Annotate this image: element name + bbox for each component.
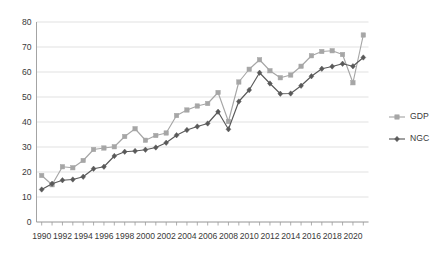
gridlines bbox=[37, 22, 369, 222]
x-tick-label: 2012 bbox=[260, 231, 279, 241]
legend-item-ngc[interactable]: NGC bbox=[389, 133, 429, 143]
series-line-gdp bbox=[42, 35, 364, 185]
data-point-gdp bbox=[205, 101, 209, 105]
x-tick-label: 2014 bbox=[281, 231, 300, 241]
legend-marker bbox=[395, 136, 400, 141]
data-point-ngc bbox=[185, 127, 190, 132]
data-point-gdp bbox=[174, 113, 178, 117]
data-point-gdp bbox=[71, 166, 75, 170]
data-point-gdp bbox=[39, 173, 43, 177]
data-point-gdp bbox=[278, 76, 282, 80]
data-point-gdp bbox=[351, 81, 355, 85]
data-point-gdp bbox=[122, 134, 126, 138]
x-tick-label: 2018 bbox=[323, 231, 342, 241]
data-point-gdp bbox=[268, 69, 272, 73]
x-tick-labels: 1990199219941996199820002002200420062008… bbox=[32, 231, 363, 241]
data-point-gdp bbox=[361, 33, 365, 37]
data-point-ngc bbox=[133, 148, 138, 153]
legend-marker bbox=[395, 115, 399, 119]
x-tick-marks bbox=[42, 222, 364, 226]
y-tick-label: 30 bbox=[22, 142, 32, 152]
y-tick-label: 60 bbox=[22, 67, 32, 77]
chart-legend: GDPNGC bbox=[389, 111, 429, 143]
data-point-gdp bbox=[143, 138, 147, 142]
data-point-ngc bbox=[70, 177, 75, 182]
legend-label: GDP bbox=[410, 111, 429, 121]
data-point-gdp bbox=[330, 49, 334, 53]
y-tick-label: 50 bbox=[22, 92, 32, 102]
line-chart: 01020304050607080 1990199219941996199820… bbox=[0, 0, 445, 257]
x-tick-label: 1996 bbox=[94, 231, 113, 241]
y-tick-label: 0 bbox=[27, 217, 32, 227]
data-point-gdp bbox=[102, 146, 106, 150]
data-point-gdp bbox=[154, 133, 158, 137]
data-point-gdp bbox=[247, 67, 251, 71]
y-tick-label: 20 bbox=[22, 167, 32, 177]
x-tick-label: 2010 bbox=[240, 231, 259, 241]
data-point-gdp bbox=[185, 108, 189, 112]
series-lines bbox=[39, 33, 365, 192]
data-point-gdp bbox=[112, 145, 116, 149]
x-tick-label: 1994 bbox=[74, 231, 93, 241]
data-point-gdp bbox=[257, 58, 261, 62]
series-gdp bbox=[39, 33, 365, 187]
data-point-ngc bbox=[122, 149, 127, 154]
series-line-ngc bbox=[42, 58, 364, 190]
x-tick-label: 2004 bbox=[177, 231, 196, 241]
data-point-gdp bbox=[340, 52, 344, 56]
data-point-gdp bbox=[320, 49, 324, 53]
x-tick-label: 1992 bbox=[53, 231, 72, 241]
data-point-gdp bbox=[237, 80, 241, 84]
y-tick-labels: 01020304050607080 bbox=[22, 17, 32, 227]
x-tick-label: 2016 bbox=[302, 231, 321, 241]
legend-item-gdp[interactable]: GDP bbox=[389, 111, 429, 121]
data-point-gdp bbox=[91, 147, 95, 151]
y-tick-label: 70 bbox=[22, 42, 32, 52]
data-point-ngc bbox=[60, 178, 65, 183]
data-point-gdp bbox=[288, 73, 292, 77]
data-point-gdp bbox=[299, 64, 303, 68]
legend-label: NGC bbox=[410, 133, 429, 143]
data-point-gdp bbox=[309, 54, 313, 58]
x-tick-label: 2008 bbox=[219, 231, 238, 241]
y-tick-label: 10 bbox=[22, 192, 32, 202]
data-point-gdp bbox=[216, 90, 220, 94]
data-point-gdp bbox=[226, 119, 230, 123]
data-point-ngc bbox=[340, 61, 345, 66]
data-point-gdp bbox=[164, 131, 168, 135]
x-tick-label: 2006 bbox=[198, 231, 217, 241]
x-tick-label: 2002 bbox=[157, 231, 176, 241]
data-point-ngc bbox=[39, 187, 44, 192]
data-point-gdp bbox=[133, 127, 137, 131]
chart-canvas: 01020304050607080 1990199219941996199820… bbox=[0, 0, 445, 257]
data-point-ngc bbox=[195, 124, 200, 129]
data-point-ngc bbox=[143, 147, 148, 152]
series-ngc bbox=[39, 55, 365, 192]
data-point-ngc bbox=[330, 64, 335, 69]
data-point-gdp bbox=[195, 104, 199, 108]
x-tick-label: 2020 bbox=[343, 231, 362, 241]
x-tick-label: 1990 bbox=[32, 231, 51, 241]
data-point-gdp bbox=[60, 165, 64, 169]
data-point-ngc bbox=[153, 145, 158, 150]
x-tick-label: 1998 bbox=[115, 231, 134, 241]
y-tick-label: 80 bbox=[22, 17, 32, 27]
y-tick-label: 40 bbox=[22, 117, 32, 127]
x-tick-label: 2000 bbox=[136, 231, 155, 241]
data-point-gdp bbox=[81, 158, 85, 162]
